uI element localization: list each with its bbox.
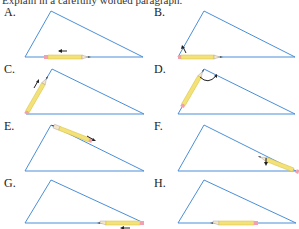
panel-b: B. xyxy=(150,0,299,57)
triangle-diagram xyxy=(0,0,149,57)
arrow-rotate-up-icon xyxy=(181,45,186,53)
triangle-diagram xyxy=(150,171,299,229)
panel-h: H. xyxy=(150,171,299,228)
pencil-icon xyxy=(50,123,92,143)
pencil-icon xyxy=(24,75,49,115)
arrow-left-icon xyxy=(120,226,130,229)
triangle-diagram xyxy=(150,57,299,114)
panel-f: F. xyxy=(150,114,299,171)
panel-d: D. xyxy=(150,57,299,114)
triangle-diagram xyxy=(0,57,149,114)
pencil-icon xyxy=(180,65,207,108)
pencil-icon xyxy=(97,221,144,225)
panel-g: G. xyxy=(0,171,149,228)
triangle-diagram xyxy=(0,171,149,229)
triangle-diagram xyxy=(150,0,299,57)
pencil-icon xyxy=(210,221,258,225)
curved-arrow-icon xyxy=(200,74,217,81)
triangle-diagram xyxy=(150,114,299,171)
arrow-left-icon xyxy=(58,49,67,53)
arrow-up-icon xyxy=(34,79,39,88)
panel-c: C. xyxy=(0,57,149,114)
panel-a: A. xyxy=(0,0,149,57)
triangle-diagram xyxy=(0,114,149,171)
panel-e: E. xyxy=(0,114,149,171)
